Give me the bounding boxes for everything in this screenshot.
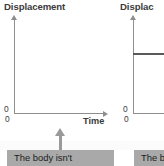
caption-background-band: [0, 141, 164, 150]
chart-left-x-axis-title: Time: [83, 116, 104, 126]
x-axis-line: [14, 113, 104, 114]
figure-root: Displacement 0 0 Time Displac 0 0 The bo…: [0, 0, 164, 166]
y-axis-origin-label: 0: [4, 104, 9, 114]
constant-displacement-line: [133, 53, 164, 55]
x-axis-line: [133, 113, 164, 114]
chart-panel-right: Displac 0 0: [119, 0, 164, 130]
x-axis-origin-label: 0: [5, 114, 10, 124]
chart-panel-left: Displacement 0 0 Time: [0, 0, 112, 130]
callout-arrow-stem: [59, 135, 62, 151]
x-axis-origin-label: 0: [124, 114, 129, 124]
y-axis-origin-label: 0: [123, 104, 128, 114]
chart-left-y-axis-title: Displacement: [4, 1, 65, 12]
caption-box-left: The body isn't: [7, 150, 114, 166]
y-axis-line: [133, 20, 134, 114]
y-axis-line: [14, 20, 15, 114]
caption-box-right: The b: [134, 150, 164, 166]
chart-right-y-axis-title: Displac: [120, 1, 153, 12]
